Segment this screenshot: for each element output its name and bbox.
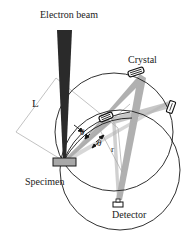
diagram-canvas <box>0 0 190 248</box>
detector <box>113 199 123 207</box>
label-crystal: Crystal <box>128 55 157 65</box>
label-distance-L: L <box>32 98 39 109</box>
label-radius-r: r <box>111 145 114 154</box>
label-theta-2: θ <box>97 139 101 148</box>
label-detector: Detector <box>112 210 146 220</box>
label-specimen: Specimen <box>25 177 64 187</box>
electron-beam <box>57 30 72 162</box>
xray-paths <box>64 74 170 200</box>
specimen <box>53 158 76 166</box>
label-electron-beam: Electron beam <box>40 10 98 20</box>
label-theta-1: θ <box>80 128 84 137</box>
